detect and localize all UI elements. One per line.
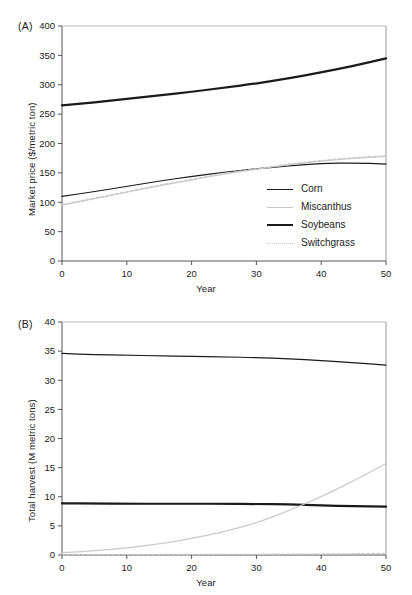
x-tick-label: 40 [316,268,327,279]
y-axis-ticks: 0510152025303540 [44,316,62,560]
soybeans-line-key [267,224,293,226]
x-tick-label: 40 [316,562,327,573]
x-tick-label: 20 [186,562,197,573]
y-tick-label: 10 [44,491,55,502]
x-axis-ticks: 01020304050 [59,555,391,573]
x-tick-label: 10 [122,268,133,279]
y-tick-label: 20 [44,433,55,444]
series-line-miscanthus [62,464,386,553]
y-tick-label: 5 [50,520,55,531]
legend: CornMiscanthusSoybeansSwitchgrass [267,180,355,252]
x-tick-label: 0 [59,562,64,573]
series-line-soybeans [62,503,386,506]
panel-b: (B) Total harvest (M metric tons) Year 0… [0,300,412,595]
panel-a-plot: 05010015020025030035040001020304050 [0,0,412,300]
corn-line-key [267,189,293,190]
y-tick-label: 250 [39,108,55,119]
y-tick-label: 35 [44,345,55,356]
y-tick-label: 100 [39,197,55,208]
series-line-corn [62,353,386,365]
legend-item-soybeans: Soybeans [267,216,355,234]
x-axis-ticks: 01020304050 [59,261,391,279]
series-line-switchgrass [62,553,386,554]
legend-label: Switchgrass [301,238,355,248]
y-tick-label: 40 [44,316,55,327]
legend-item-switchgrass: Switchgrass [267,234,355,252]
y-tick-label: 25 [44,404,55,415]
switchgrass-line-key [267,243,293,244]
figure-two-panel-line-charts: (A) Market price ($/metric ton) Year 050… [0,0,412,595]
panel-a: (A) Market price ($/metric ton) Year 050… [0,0,412,300]
y-tick-label: 400 [39,20,55,31]
legend-label: Miscanthus [301,202,352,212]
x-tick-label: 30 [251,268,262,279]
legend-label: Soybeans [301,220,345,230]
x-tick-label: 10 [122,562,133,573]
x-tick-label: 50 [381,268,392,279]
panel-b-plot: 051015202530354001020304050 [0,300,412,595]
legend-item-miscanthus: Miscanthus [267,198,355,216]
x-tick-label: 30 [251,562,262,573]
y-tick-label: 300 [39,79,55,90]
y-tick-label: 15 [44,462,55,473]
x-tick-label: 50 [381,562,392,573]
y-tick-label: 0 [50,255,55,266]
x-tick-label: 0 [59,268,64,279]
series-line-soybeans [62,58,386,105]
y-tick-label: 150 [39,167,55,178]
x-tick-label: 20 [186,268,197,279]
y-tick-label: 30 [44,375,55,386]
y-tick-label: 0 [50,549,55,560]
legend-label: Corn [301,184,323,194]
miscanthus-line-key [267,207,293,208]
y-tick-label: 350 [39,50,55,61]
y-tick-label: 50 [44,226,55,237]
y-axis-ticks: 050100150200250300350400 [39,20,62,266]
y-tick-label: 200 [39,138,55,149]
legend-item-corn: Corn [267,180,355,198]
